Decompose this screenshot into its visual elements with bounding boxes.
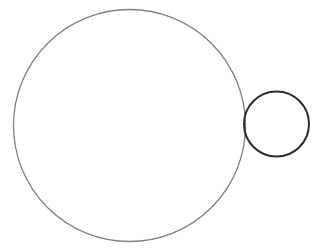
figure-root bbox=[0, 0, 315, 250]
canvas-background bbox=[0, 0, 315, 250]
circles-diagram bbox=[0, 0, 315, 250]
